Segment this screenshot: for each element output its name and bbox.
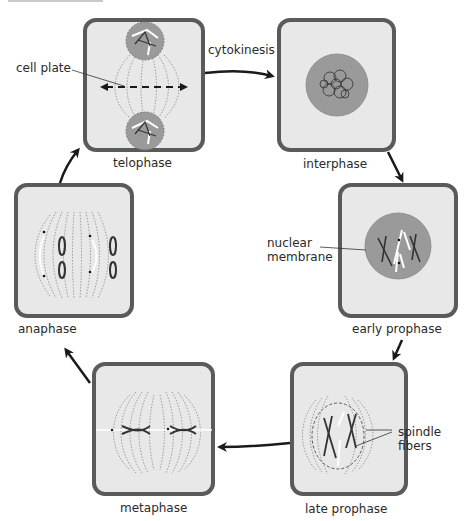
telophase-art xyxy=(72,22,188,150)
metaphase-label: metaphase xyxy=(120,501,187,515)
arrow-telophase-to-interphase xyxy=(205,71,272,76)
early-prophase-art xyxy=(320,213,431,279)
telophase-top-nucleus xyxy=(126,22,164,60)
anaphase-label: anaphase xyxy=(18,322,77,336)
spindle-fibers-label-line2: fibers xyxy=(398,439,432,453)
cell-plate-label: cell plate xyxy=(16,61,71,75)
arrow-metaphase-to-anaphase xyxy=(66,350,90,383)
interphase-art xyxy=(306,54,368,116)
telophase-bottom-nucleus xyxy=(126,112,164,150)
early-prophase-label: early prophase xyxy=(352,322,442,336)
arrow-anaphase-to-telophase xyxy=(60,150,78,183)
metaphase-art xyxy=(96,392,212,473)
arrow-late-prophase-to-metaphase xyxy=(220,443,290,447)
anaphase-art xyxy=(35,212,116,298)
arrow-interphase-to-early-prophase xyxy=(388,152,402,180)
spindle-fibers-label-line1: spindle xyxy=(398,425,441,439)
arrow-early-prophase-to-late-prophase xyxy=(394,340,402,358)
late-prophase-label: late prophase xyxy=(305,502,387,516)
nuclear-membrane-label-line2: membrane xyxy=(267,250,333,264)
cycle-arrows xyxy=(60,71,402,447)
nuclear-membrane-label-line1: nuclear xyxy=(267,236,312,250)
telophase-label: telophase xyxy=(113,156,172,170)
interphase-nucleus xyxy=(306,54,368,116)
late-prophase-art xyxy=(303,396,393,474)
cytokinesis-label: cytokinesis xyxy=(208,43,275,57)
interphase-label: interphase xyxy=(303,157,367,171)
